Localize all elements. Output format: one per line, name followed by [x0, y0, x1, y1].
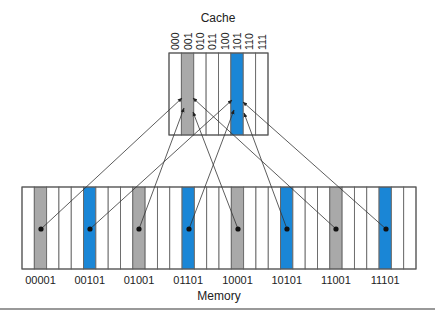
memory-cell	[305, 187, 317, 269]
cache-slot-label: 010	[194, 32, 206, 50]
memory-dot-01101	[186, 226, 191, 231]
cache-slot-101	[231, 53, 243, 135]
memory-cell	[244, 187, 256, 269]
cache-slot-label: 110	[243, 33, 255, 50]
cache-slot-label: 111	[256, 34, 268, 50]
cache-slot-label: 000	[169, 32, 181, 50]
memory-cell	[96, 187, 108, 269]
memory-address-label: 10101	[271, 274, 302, 286]
cache-slot-label: 101	[231, 32, 243, 50]
memory-dot-11101	[383, 226, 388, 231]
cache-slot-110	[243, 53, 255, 135]
memory-cell	[22, 187, 34, 269]
memory-cell	[207, 187, 219, 269]
memory-cell	[145, 187, 157, 269]
cache-slot-000	[169, 53, 181, 135]
cache-title: Cache	[201, 11, 236, 25]
memory-cell	[318, 187, 330, 269]
direct-mapped-cache-diagram: Cache 000001010011100101110111 000010010…	[0, 0, 435, 312]
memory-address-label: 10001	[222, 274, 253, 286]
memory-dot-01001	[136, 226, 141, 231]
memory-address-label: 11101	[371, 274, 400, 286]
memory-cell	[404, 187, 416, 269]
memory-cell	[391, 187, 403, 269]
memory-dot-11001	[333, 226, 338, 231]
cache-slot-010	[194, 53, 206, 135]
memory-address-label: 01001	[124, 274, 155, 286]
cache-slot-labels: 000001010011100101110111	[169, 32, 268, 50]
cache-slot-label: 011	[206, 33, 218, 50]
memory-dot-10001	[235, 226, 240, 231]
cache-slot-001	[181, 53, 193, 135]
memory-cell	[108, 187, 120, 269]
memory-cell	[354, 187, 366, 269]
cache-slot-label: 100	[219, 32, 231, 50]
cache-slot-011	[206, 53, 218, 135]
memory-cell	[219, 187, 231, 269]
memory-cell	[157, 187, 169, 269]
memory-address-label: 00001	[25, 274, 56, 286]
memory-cell	[47, 187, 59, 269]
memory-cell	[367, 187, 379, 269]
memory-title: Memory	[197, 289, 240, 303]
memory-cell	[59, 187, 71, 269]
memory-address-label: 01101	[173, 274, 203, 286]
memory-address-labels: 0000100101010010110110001101011100111101	[25, 274, 400, 286]
memory-dot-00101	[87, 226, 92, 231]
memory-cell	[170, 187, 182, 269]
memory-address-label: 00101	[74, 274, 105, 286]
memory-dot-00001	[38, 226, 43, 231]
memory-cell	[268, 187, 280, 269]
cache-block	[169, 53, 268, 135]
memory-block	[22, 187, 416, 269]
memory-cell	[256, 187, 268, 269]
cache-slot-label: 001	[182, 32, 194, 50]
memory-address-label: 11001	[321, 274, 351, 286]
memory-dot-10101	[284, 226, 289, 231]
